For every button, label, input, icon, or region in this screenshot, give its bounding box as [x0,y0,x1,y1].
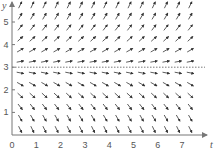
slope-arrow [103,25,107,31]
slope-arrow [188,104,192,110]
slope-arrow [102,61,109,62]
x-axis-label: t [210,139,213,150]
slope-arrow [126,61,133,62]
slope-arrow [66,93,71,98]
slope-arrow [114,49,120,53]
slope-arrow [127,104,131,110]
slope-arrow [114,72,121,73]
slope-arrow [92,2,95,8]
slope-arrow [65,72,72,73]
slope-arrow [43,13,47,19]
slope-arrow [164,104,168,110]
slope-arrow [177,2,180,8]
slope-arrow [116,126,119,132]
x-tick-label: 6 [155,140,160,150]
slope-arrow [140,13,144,19]
slope-arrow [79,104,83,110]
slope-arrow [91,115,95,121]
slope-arrow [127,93,132,98]
slope-arrow [163,49,169,53]
slope-arrow [42,37,47,42]
slope-arrow [55,2,58,8]
slope-arrow [138,72,145,73]
slope-arrow [114,61,121,62]
slope-arrow [90,49,96,53]
slope-arrow [176,104,180,110]
slope-arrow [54,93,59,98]
x-tick-label: 5 [131,140,136,150]
slope-arrow [90,61,97,62]
slope-arrow [91,93,96,98]
slope-arrow [140,104,144,110]
slope-arrow [41,61,48,62]
slope-arrow [128,13,132,19]
slope-arrow [164,13,168,19]
slope-arrow [18,93,23,98]
slope-arrow [31,115,35,121]
slope-arrow [187,49,193,53]
slope-arrow [43,2,46,8]
slope-arrow [139,37,144,42]
slope-arrow [55,25,59,31]
slope-arrow [18,37,23,42]
slope-arrow [41,49,47,53]
slope-arrow [175,82,181,86]
slope-arrow [188,37,193,42]
slope-arrow [175,49,181,53]
slope-arrow [103,104,107,110]
slope-arrow [163,93,168,98]
y-tick-label: 1 [3,107,8,117]
slope-arrow [140,115,144,121]
slope-arrow [164,126,167,132]
slope-arrow [126,72,133,73]
slope-arrow [17,72,24,73]
slope-arrow [114,82,120,86]
slope-arrow [115,37,120,42]
slope-arrow [66,82,72,86]
slope-arrow [30,25,34,31]
slope-arrow [140,126,143,132]
slope-arrow [139,93,144,98]
slope-arrow [163,37,168,42]
slope-arrow [189,13,193,19]
slope-arrow [18,25,22,31]
slope-arrow [42,93,47,98]
slope-arrow [66,37,71,42]
slope-field-chart: 01234567 12345 t y [0,0,219,150]
slope-arrow [54,82,60,86]
y-tick-label: 5 [3,17,8,27]
slope-arrow [19,126,22,132]
slope-arrow [188,93,193,98]
slope-arrow [30,37,35,42]
slope-arrow [187,82,193,86]
slope-arrow [65,61,72,62]
slope-arrow [151,37,156,42]
slope-arrow [90,82,96,86]
slope-arrow [164,115,168,121]
slope-arrow [163,72,170,73]
slope-arrow [30,93,35,98]
slope-arrow [78,49,84,53]
slope-arrow [79,25,83,31]
slope-arrow [102,72,109,73]
slope-arrow [29,82,35,86]
slope-arrow [17,49,23,53]
slope-arrow [139,82,145,86]
slope-arrow [18,104,22,110]
slope-arrow [17,82,23,86]
slope-arrow [102,49,108,53]
slope-arrow [55,13,59,19]
slope-arrow [67,2,70,8]
x-tick-label: 3 [82,140,87,150]
slope-arrow [91,25,95,31]
slope-arrow [151,49,157,53]
y-axis-label: y [1,0,7,11]
slope-arrow [128,2,131,8]
slope-arrow [176,13,180,19]
slope-arrow [116,2,119,8]
slope-arrow [164,25,168,31]
x-tick-labels: 01234567 [9,140,184,150]
slope-arrow [55,115,59,121]
slope-arrow [43,126,46,132]
slope-arrow [79,115,83,121]
